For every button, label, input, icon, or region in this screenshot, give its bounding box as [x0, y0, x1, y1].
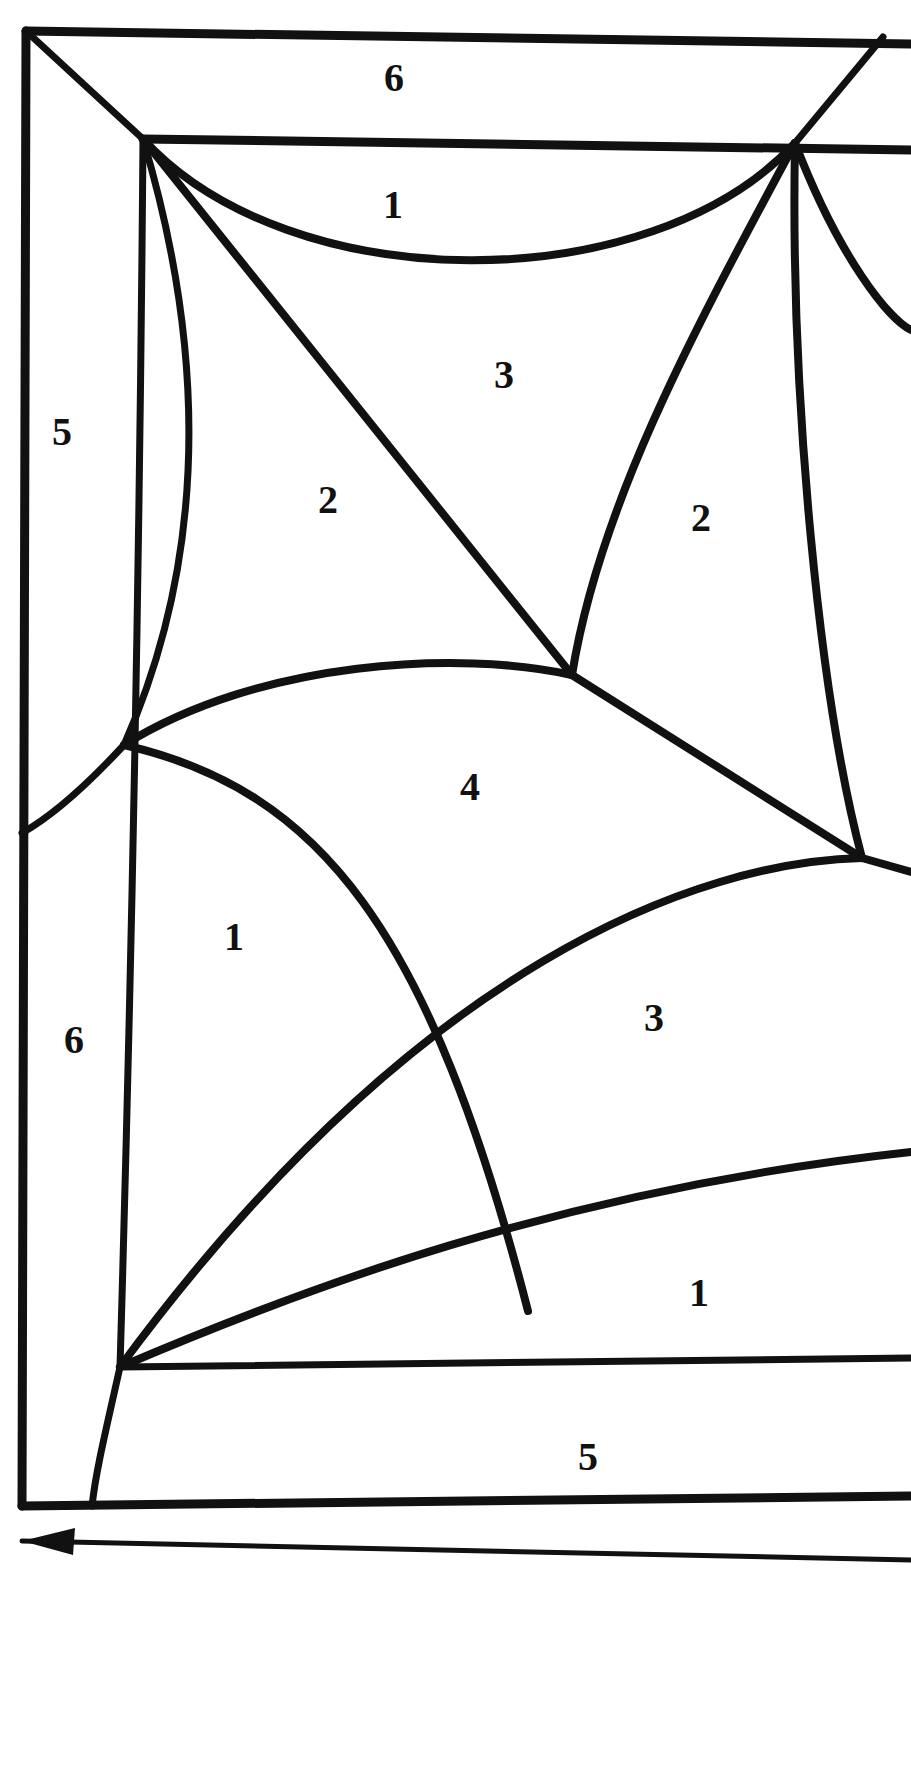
figure-canvas: 6 1 5 3 2 2 4 1 6 3 1 5: [0, 0, 911, 1770]
region-label-lower-3: 3: [644, 998, 664, 1038]
region-label-lower-1: 1: [224, 917, 244, 957]
region-label-bottom-1: 1: [689, 1273, 709, 1313]
region-label-center-3: 3: [494, 355, 514, 395]
region-label-bottom-5: 5: [578, 1437, 598, 1477]
region-label-upper-1: 1: [383, 185, 403, 225]
region-label-center-4: 4: [460, 767, 480, 807]
region-label-left-5: 5: [52, 412, 72, 452]
line-diagram-svg: [0, 0, 911, 1770]
region-label-lower-left-6: 6: [64, 1020, 84, 1060]
region-label-right-2: 2: [691, 498, 711, 538]
region-label-top-6: 6: [384, 58, 404, 98]
frame-left-edge: [22, 31, 26, 1506]
region-label-center-2: 2: [318, 480, 338, 520]
